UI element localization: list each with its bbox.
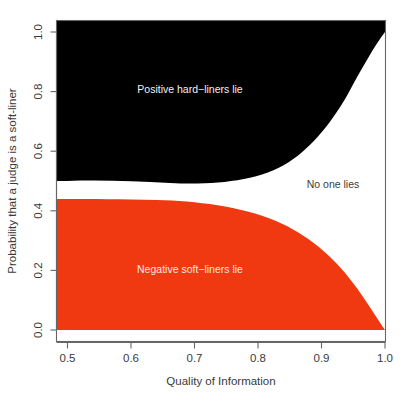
x-tick-label-5: 1.0 [377, 352, 393, 364]
chart-figure: Positive hard−liners lie Negative soft−l… [0, 0, 420, 402]
y-tick-label-5: 1.0 [32, 24, 44, 40]
x-tick-label-0: 0.5 [60, 352, 76, 364]
y-tick-label-2: 0.4 [32, 202, 44, 219]
x-tick-label-3: 0.8 [250, 352, 266, 364]
region-label-negative-softliners: Negative soft−liners lie [137, 263, 243, 275]
y-tick-label-3: 0.6 [32, 143, 44, 159]
y-axis-title: Probability that a judge is a soft-liner [6, 88, 18, 274]
y-tick-label-0: 0.0 [32, 322, 44, 338]
y-tick-label-1: 0.2 [32, 262, 44, 278]
x-axis-title: Quality of Information [166, 375, 275, 387]
x-tick-label-1: 0.6 [123, 352, 139, 364]
x-tick-label-4: 0.9 [314, 352, 330, 364]
region-label-no-one-lies: No one lies [307, 178, 360, 190]
region-plot-svg: Positive hard−liners lie Negative soft−l… [0, 0, 420, 402]
y-tick-label-4: 0.8 [32, 84, 44, 100]
x-tick-label-2: 0.7 [187, 352, 203, 364]
region-label-positive-hardliners: Positive hard−liners lie [137, 83, 243, 95]
